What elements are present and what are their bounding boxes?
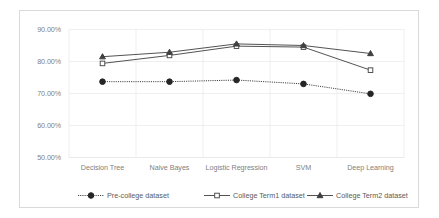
series-line: [103, 46, 371, 70]
legend-marker-icon: [204, 191, 230, 200]
series-layer: [100, 41, 374, 97]
x-axis-tick-label: Decision Tree: [69, 163, 136, 172]
line-chart-plot: [0, 0, 439, 218]
x-axis-tick-label: SVM: [270, 163, 337, 172]
legend-label: College Term2 dataset: [336, 192, 408, 199]
data-point-marker: [167, 79, 173, 85]
series-2: [100, 44, 373, 73]
y-axis-tick-label: 60.00%: [15, 121, 61, 130]
y-axis-tick-label: 90.00%: [15, 25, 61, 34]
legend-marker-icon: [307, 191, 333, 200]
legend-label: College Term1 dataset: [233, 192, 305, 199]
series-3: [100, 41, 374, 59]
data-point-marker: [368, 68, 373, 73]
legend-item-3[interactable]: College Term2 dataset: [307, 191, 408, 200]
data-point-marker: [100, 79, 106, 85]
y-axis-tick-label: 80.00%: [15, 57, 61, 66]
legend-label: Pre-college dataset: [107, 192, 169, 199]
data-point-marker: [368, 91, 374, 97]
legend-item-2[interactable]: College Term1 dataset: [204, 191, 305, 200]
x-axis-tick-label: Naive Bayes: [136, 163, 203, 172]
data-point-marker: [301, 81, 307, 87]
data-point-marker: [234, 77, 240, 83]
y-axis-tick-label: 70.00%: [15, 89, 61, 98]
legend-marker-icon: [78, 191, 104, 200]
data-point-marker: [100, 61, 105, 66]
x-axis-tick-label: Logistic Regression: [203, 163, 270, 172]
x-axis-tick-label: Deep Learning: [337, 163, 404, 172]
legend-item-1[interactable]: Pre-college dataset: [78, 191, 169, 200]
y-axis-tick-label: 50.00%: [15, 153, 61, 162]
